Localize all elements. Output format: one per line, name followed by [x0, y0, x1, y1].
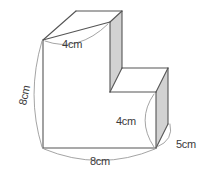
dimension-label-left-height: 8cm [16, 84, 32, 106]
prism-drawing: 4cm 8cm 8cm 4cm 5cm [0, 0, 208, 177]
leader-arc-left-height [34, 41, 42, 147]
dimension-label-right-depth: 5cm [176, 138, 196, 150]
dimension-label-bottom-width: 8cm [90, 155, 110, 167]
dimension-label-top-depth: 4cm [62, 38, 82, 50]
geometry-figure: 4cm 8cm 8cm 4cm 5cm [0, 0, 208, 177]
dimension-label-step-height: 4cm [116, 115, 136, 127]
